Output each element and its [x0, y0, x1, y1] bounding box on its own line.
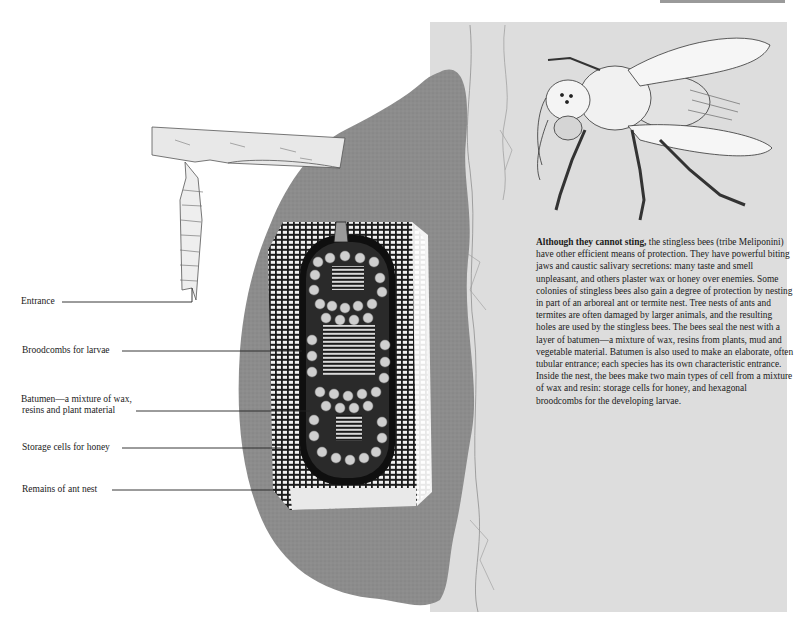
label-remains-ant-nest: Remains of ant nest — [22, 484, 97, 495]
caption-body: the stingless bees (tribe Meliponini) ha… — [536, 237, 793, 406]
caption-lead: Although they cannot sting, — [536, 237, 646, 247]
label-broodcombs: Broodcombs for larvae — [22, 345, 110, 356]
figure: Entrance Broodcombs for larvae Batumen—a… — [0, 0, 809, 631]
page-edge — [660, 0, 785, 3]
nest-cross-section — [268, 222, 432, 510]
label-storage-cells: Storage cells for honey — [22, 442, 110, 453]
label-batumen-line1: Batumen—a mixture of wax, — [21, 394, 132, 405]
label-entrance: Entrance — [21, 296, 55, 307]
label-batumen-line2: resins and plant material — [22, 405, 115, 416]
caption-text: Although they cannot sting, the stingles… — [536, 236, 794, 407]
